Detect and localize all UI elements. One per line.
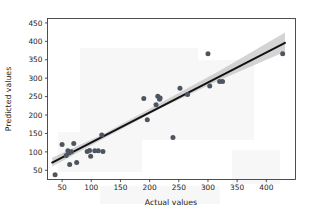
y-tick-label: 450 [28, 19, 42, 28]
y-tick-label: 250 [28, 92, 42, 101]
scatter-plot-canvas: 50100150200250300350400 5010015020025030… [0, 0, 310, 212]
data-point [280, 51, 285, 56]
data-point [185, 92, 190, 97]
y-tick-label: 100 [28, 148, 42, 157]
data-point [69, 149, 74, 154]
y-tick-label: 400 [28, 37, 42, 46]
data-point [220, 79, 225, 84]
y-axis-title: Predicted values [4, 67, 13, 131]
x-tick-label: 200 [143, 183, 157, 192]
data-point [207, 83, 212, 88]
data-point [99, 132, 104, 137]
y-tick-label: 50 [33, 166, 43, 175]
data-point [145, 117, 150, 122]
data-point [87, 148, 92, 153]
x-axis-title: Actual values [145, 198, 197, 207]
data-point [67, 162, 72, 167]
data-point [100, 149, 105, 154]
data-point [158, 96, 163, 101]
x-tick-label: 150 [113, 183, 127, 192]
data-point [74, 160, 79, 165]
data-point [71, 141, 76, 146]
data-point [177, 86, 182, 91]
data-point [60, 142, 65, 147]
y-tick-label: 350 [28, 55, 42, 64]
x-tick-label: 100 [84, 183, 98, 192]
data-point [88, 154, 93, 159]
data-point [53, 172, 58, 177]
data-point [205, 51, 210, 56]
data-point [154, 102, 159, 107]
chart-figure: 50100150200250300350400 5010015020025030… [0, 0, 310, 212]
x-tick-label: 250 [172, 183, 186, 192]
data-point [170, 135, 175, 140]
y-tick-label: 200 [28, 111, 42, 120]
data-point [141, 96, 146, 101]
y-tick-label: 150 [28, 129, 42, 138]
y-tick-label: 300 [28, 74, 42, 83]
x-tick-label: 300 [201, 183, 215, 192]
x-tick-label: 350 [230, 183, 244, 192]
x-tick-label: 400 [259, 183, 273, 192]
data-point [96, 148, 101, 153]
x-tick-label: 50 [57, 183, 67, 192]
